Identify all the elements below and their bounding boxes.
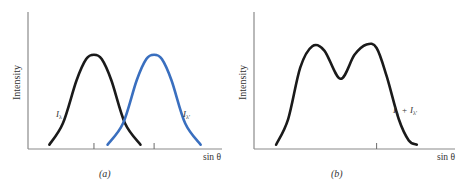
x-axis-label: sin θ [203,152,221,162]
series-label-sum: Iλ+Iλ' [392,105,417,116]
y-axis-label: Intensity [237,65,248,100]
series-label-i-lambda-prime: Iλ' [182,109,190,120]
series-line-0 [49,55,140,145]
panel-caption: (b) [331,168,343,180]
series-group [276,44,417,145]
y-axis-label: Intensity [11,65,22,100]
panel-caption: (a) [99,168,111,180]
x-ticks [94,143,154,149]
figure: Intensity sin θ (a) Iλ Iλ' Intensity sin… [0,0,470,185]
series-group [49,55,200,145]
series-line-1 [108,55,201,145]
panel-a: Intensity sin θ (a) Iλ Iλ' [11,12,222,180]
x-axis-label: sin θ [437,152,455,162]
series-line-0 [276,44,417,145]
panel-b: Intensity sin θ (b) Iλ+Iλ' [237,12,455,180]
series-label-i-lambda: Iλ [55,109,62,120]
